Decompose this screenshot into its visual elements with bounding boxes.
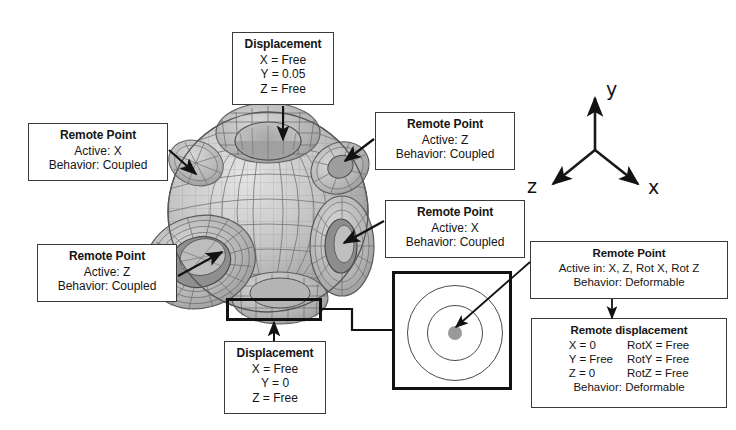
callout-line: Z = Free	[231, 391, 319, 406]
callout-line: Y = 0	[231, 376, 319, 391]
callout-line: X = 0	[569, 338, 613, 352]
callout-line: Behavior: Coupled	[44, 279, 170, 294]
callout-line: Y = 0.05	[239, 67, 327, 82]
callout-title: Remote Point	[35, 128, 161, 143]
callout-remote-point-right-mid: Remote Point Active: X Behavior: Coupled	[385, 200, 525, 258]
callout-line: Active in: X, Z, Rot X, Rot Z	[537, 261, 721, 275]
callout-title: Remote Point	[382, 117, 508, 132]
detail-source-rectangle	[226, 298, 322, 321]
axis-label-y: y	[606, 78, 617, 100]
callout-title: Remote Point	[392, 205, 518, 220]
diagram-canvas: Displacement X = Free Y = 0.05 Z = Free …	[0, 0, 736, 430]
remote-displacement-columns: X = 0 Y = Free Z = 0 RotX = Free RotY = …	[538, 338, 720, 380]
callout-remote-point-detail: Remote Point Active in: X, Z, Rot X, Rot…	[530, 241, 728, 299]
callout-remote-point-left-bottom: Remote Point Active: Z Behavior: Coupled	[37, 244, 177, 302]
callout-line: Active: Z	[382, 133, 508, 148]
callout-line: RotZ = Free	[627, 366, 689, 380]
callout-footer: Behavior: Deformable	[538, 380, 720, 394]
callout-displacement-top: Displacement X = Free Y = 0.05 Z = Free	[232, 32, 334, 105]
callout-line: RotX = Free	[627, 338, 689, 352]
callout-line: Active: X	[392, 221, 518, 236]
callout-remote-displacement: Remote displacement X = 0 Y = Free Z = 0…	[531, 318, 727, 408]
callout-line: Behavior: Coupled	[35, 158, 161, 173]
callout-title: Remote displacement	[538, 323, 720, 337]
callout-title: Remote Point	[537, 246, 721, 260]
callout-title: Displacement	[239, 37, 327, 52]
callout-line: Behavior: Deformable	[537, 275, 721, 289]
translation-column: X = 0 Y = Free Z = 0	[569, 338, 613, 380]
callout-line: Active: Z	[44, 265, 170, 280]
callout-title: Displacement	[231, 346, 319, 361]
callout-line: Behavior: Coupled	[392, 235, 518, 250]
callout-line: X = Free	[231, 362, 319, 377]
callout-line: RotY = Free	[627, 352, 689, 366]
callout-remote-point-left-top: Remote Point Active: X Behavior: Coupled	[28, 123, 168, 181]
axis-label-z: z	[527, 175, 537, 197]
callout-remote-point-right-top: Remote Point Active: Z Behavior: Coupled	[375, 112, 515, 170]
callout-title: Remote Point	[44, 249, 170, 264]
axis-label-x: x	[648, 176, 659, 198]
callout-line: Z = 0	[569, 366, 613, 380]
callout-line: X = Free	[239, 53, 327, 68]
callout-line: Behavior: Coupled	[382, 147, 508, 162]
callout-line: Z = Free	[239, 82, 327, 97]
detail-zoom-frame	[392, 271, 512, 390]
callout-line: Y = Free	[569, 352, 613, 366]
rotation-column: RotX = Free RotY = Free RotZ = Free	[627, 338, 689, 380]
callout-line: Active: X	[35, 144, 161, 159]
callout-displacement-bottom: Displacement X = Free Y = 0 Z = Free	[224, 341, 326, 414]
remote-point-hub-dot	[448, 326, 462, 340]
